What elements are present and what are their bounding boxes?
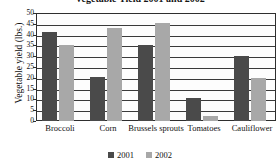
bar-group [84, 13, 132, 121]
chart-legend: 20012002 [0, 151, 280, 160]
bar-group [132, 13, 180, 121]
y-tick-label: 50 [18, 9, 34, 17]
bar-chart: Vegetable Yield 2001 and 2002 Vegetable … [0, 0, 280, 167]
bar [203, 116, 218, 121]
bar [155, 23, 170, 121]
y-tick-label: 5 [18, 106, 34, 114]
y-tick-mark [33, 121, 36, 122]
y-tick-label: 25 [18, 63, 34, 71]
bar-group [228, 13, 276, 121]
bar [138, 45, 153, 121]
y-tick-label: 20 [18, 74, 34, 82]
y-tick-label: 15 [18, 85, 34, 93]
x-axis-labels: BroccoliCornBrussels sproutsTomatoesCaul… [36, 123, 276, 145]
legend-item[interactable]: 2001 [108, 151, 134, 160]
bar [107, 28, 122, 121]
y-tick-label: 40 [18, 31, 34, 39]
y-tick-label: 35 [18, 41, 34, 49]
bar [186, 98, 201, 121]
chart-title: Vegetable Yield 2001 and 2002 [0, 0, 280, 4]
legend-item[interactable]: 2002 [146, 151, 172, 160]
y-tick-label: 10 [18, 95, 34, 103]
bar [251, 78, 266, 121]
legend-swatch-icon [146, 152, 152, 158]
bar-group [180, 13, 228, 121]
legend-label: 2002 [155, 151, 172, 160]
y-tick-label: 30 [18, 52, 34, 60]
bar [234, 56, 249, 121]
bars-layer [36, 13, 276, 121]
legend-swatch-icon [108, 152, 114, 158]
bar-group [36, 13, 84, 121]
y-tick-label: 45 [18, 20, 34, 28]
bar [90, 77, 105, 121]
x-tick-label: Cauliflower [222, 123, 280, 133]
bar [59, 45, 74, 121]
bar [42, 32, 57, 121]
legend-label: 2001 [117, 151, 134, 160]
